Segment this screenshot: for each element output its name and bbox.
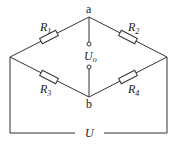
node-b-label: b — [86, 97, 92, 111]
r2-label: R2 — [127, 20, 139, 36]
uo-label: Uo — [84, 49, 97, 64]
r3-label: R3 — [39, 82, 51, 98]
r1-label: R1 — [39, 20, 51, 36]
terminal-bottom — [87, 65, 91, 69]
bridge-circuit-diagram: a b R1 R2 R3 R4 Uo U — [0, 0, 171, 145]
circuit-svg: a b R1 R2 R3 R4 Uo U — [0, 0, 171, 145]
r4-label: R4 — [127, 82, 139, 98]
terminal-top — [87, 42, 91, 46]
supply-voltage-label: U — [85, 126, 95, 140]
node-a-label: a — [86, 2, 92, 16]
